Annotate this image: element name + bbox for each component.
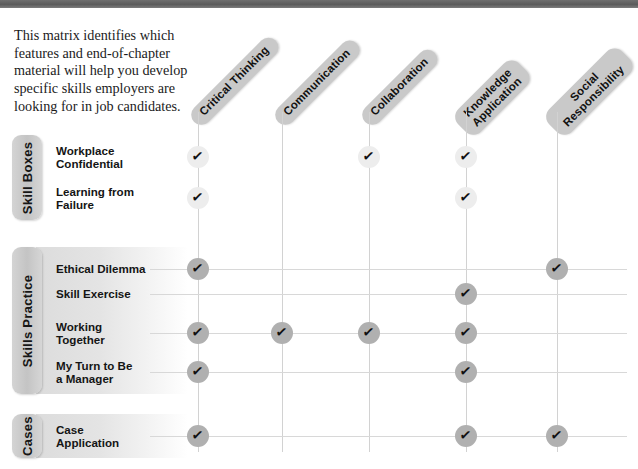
check-icon: ✓ [191, 260, 205, 276]
check-icon: ✓ [191, 427, 205, 443]
intro-paragraph: This matrix identifies which features an… [14, 27, 196, 115]
check-icon: ✓ [459, 363, 473, 379]
check-icon: ✓ [362, 324, 376, 340]
check-mark: ✓ [187, 322, 209, 344]
check-mark: ✓ [271, 322, 293, 344]
skills-matrix: This matrix identifies which features an… [0, 0, 638, 469]
row-label: My Turn to Be a Manager [56, 359, 186, 386]
check-mark: ✓ [455, 425, 477, 447]
column-header-5: Social Responsibility [542, 44, 637, 139]
column-header-2: Communication [271, 37, 363, 129]
top-rule [0, 0, 638, 8]
check-mark: ✓ [455, 187, 477, 209]
category-tab-skill-boxes[interactable]: Skill Boxes [12, 135, 42, 220]
row-label: Case Application [56, 423, 186, 450]
row-label: Ethical Dilemma [56, 262, 186, 275]
column-gridline-2 [282, 112, 283, 452]
check-mark: ✓ [187, 361, 209, 383]
check-icon: ✓ [459, 189, 473, 205]
row-connector-line [150, 333, 627, 334]
row-connector-line [150, 372, 627, 373]
row-label: Working Together [56, 320, 186, 347]
row-label: Learning from Failure [56, 185, 186, 212]
check-icon: ✓ [362, 148, 376, 164]
check-icon: ✓ [459, 148, 473, 164]
category-tab-label: Skill Boxes [20, 141, 35, 214]
category-tab-skills-practice[interactable]: Skills Practice [12, 247, 42, 394]
check-mark: ✓ [546, 425, 568, 447]
check-mark: ✓ [187, 425, 209, 447]
check-icon: ✓ [550, 427, 564, 443]
check-icon: ✓ [191, 148, 205, 164]
check-icon: ✓ [550, 260, 564, 276]
column-header-3: Collaboration [358, 46, 441, 129]
check-mark: ✓ [187, 187, 209, 209]
check-mark: ✓ [455, 283, 477, 305]
row-label: Workplace Confidential [56, 144, 186, 171]
check-mark: ✓ [546, 258, 568, 280]
check-mark: ✓ [455, 146, 477, 168]
check-icon: ✓ [275, 324, 289, 340]
column-gridline-5 [557, 112, 558, 452]
column-header-1: Critical Thinking [187, 34, 282, 129]
check-icon: ✓ [191, 363, 205, 379]
check-mark: ✓ [187, 146, 209, 168]
check-icon: ✓ [459, 427, 473, 443]
check-mark: ✓ [187, 258, 209, 280]
category-tab-cases[interactable]: Cases [12, 414, 42, 458]
check-mark: ✓ [455, 361, 477, 383]
check-mark: ✓ [358, 146, 380, 168]
category-tab-label: Skills Practice [20, 274, 35, 367]
row-label: Skill Exercise [56, 287, 186, 300]
check-mark: ✓ [358, 322, 380, 344]
row-connector-line [150, 294, 627, 295]
column-header-4: Knowledge Application [451, 56, 535, 140]
check-icon: ✓ [459, 285, 473, 301]
check-icon: ✓ [191, 189, 205, 205]
category-tab-label: Cases [20, 416, 35, 456]
check-icon: ✓ [191, 324, 205, 340]
check-mark: ✓ [455, 322, 477, 344]
check-icon: ✓ [459, 324, 473, 340]
